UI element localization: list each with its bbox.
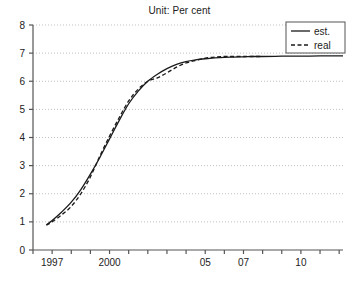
y-tick-label: 4 — [19, 132, 25, 143]
y-tick-label: 1 — [19, 216, 25, 227]
legend-label-est: est. — [314, 26, 330, 37]
chart-plot: 012345678 19972000050710 est.real — [0, 0, 359, 285]
x-axis-ticks: 19972000050710 — [33, 250, 339, 268]
y-tick-label: 6 — [19, 76, 25, 87]
y-tick-label: 3 — [19, 160, 25, 171]
y-tick-label: 0 — [19, 245, 25, 256]
y-tick-label: 7 — [19, 48, 25, 59]
x-tick-label: 07 — [238, 257, 250, 268]
legend-label-real: real — [314, 40, 331, 51]
axes — [33, 25, 343, 250]
x-tick-label: 05 — [200, 257, 212, 268]
x-tick-label: 2000 — [98, 257, 121, 268]
chart-legend: est.real — [286, 22, 345, 53]
y-tick-label: 8 — [19, 20, 25, 31]
x-tick-label: 10 — [295, 257, 307, 268]
chart-container: Unit: Per cent 012345678 19972000050710 … — [0, 0, 359, 285]
y-tick-label: 2 — [19, 188, 25, 199]
x-tick-label: 1997 — [41, 257, 64, 268]
series-line-real — [46, 56, 262, 225]
y-tick-label: 5 — [19, 104, 25, 115]
y-axis-ticks: 012345678 — [19, 20, 33, 256]
